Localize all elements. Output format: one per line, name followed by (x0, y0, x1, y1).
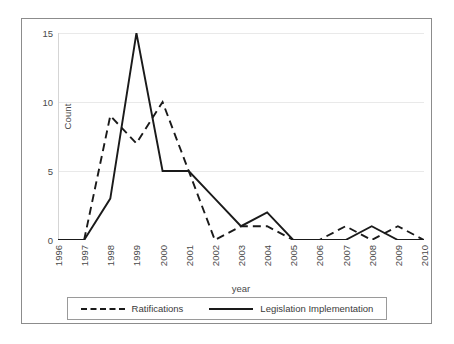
x-tick-label: 2000 (157, 245, 168, 266)
x-tick-label: 2001 (183, 245, 194, 266)
x-tick-label: 1999 (131, 245, 142, 266)
x-tick-label: 2004 (262, 245, 273, 266)
x-axis-title: year (58, 283, 424, 294)
x-tick-label: 2009 (392, 245, 403, 266)
series-line-legislation-implementation (58, 33, 424, 240)
legend-swatch-dashed-icon (81, 308, 125, 310)
legend-item-legislation-implementation: Legislation Implementation (209, 303, 373, 314)
x-tick-label: 2007 (340, 245, 351, 266)
x-tick-label: 2006 (314, 245, 325, 266)
x-tick-label: 2005 (288, 245, 299, 266)
x-tick-label: 1997 (79, 245, 90, 266)
x-tick-label: 2003 (236, 245, 247, 266)
legend-swatch-solid-icon (209, 308, 253, 310)
data-series-lines (58, 33, 424, 240)
x-tick-label: 2008 (366, 245, 377, 266)
plot-area (58, 33, 424, 240)
plot-panel: 051015 199619971998199920002001200220032… (58, 33, 424, 240)
legend-label-ratifications: Ratifications (132, 303, 184, 314)
chart-legend: Ratifications Legislation Implementation (67, 297, 387, 320)
x-tick-label: 1998 (105, 245, 116, 266)
gridlines (58, 33, 424, 240)
x-tick-label: 1996 (53, 245, 64, 266)
x-tick-label: 2010 (419, 245, 430, 266)
legend-label-legislation-implementation: Legislation Implementation (260, 303, 373, 314)
x-tick-label: 2002 (209, 245, 220, 266)
y-tick-label: 10 (42, 97, 53, 108)
y-tick-label: 15 (42, 28, 53, 39)
y-tick-label: 0 (48, 235, 53, 246)
y-axis-title: Count (62, 62, 73, 172)
chart-figure: 051015 199619971998199920002001200220032… (0, 0, 454, 344)
legend-item-ratifications: Ratifications (81, 303, 184, 314)
y-tick-label: 5 (48, 166, 53, 177)
